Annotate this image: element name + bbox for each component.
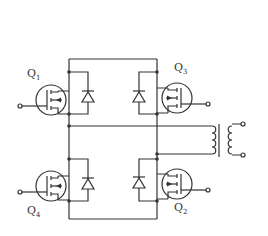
q2-mosfet bbox=[157, 169, 210, 199]
primary-winding bbox=[212, 126, 216, 154]
q4-label: Q4 bbox=[27, 205, 41, 219]
d2-diode bbox=[133, 159, 157, 201]
d3-diode bbox=[133, 72, 157, 114]
secondary-winding bbox=[228, 126, 232, 154]
q4-mosfet bbox=[18, 171, 69, 201]
transformer bbox=[212, 122, 245, 157]
q3-label: Q3 bbox=[174, 62, 188, 76]
q1-mosfet bbox=[18, 72, 69, 115]
q3-mosfet bbox=[157, 83, 210, 113]
full-bridge-circuit-diagram: Q1 Q3 Q4 Q2 bbox=[0, 0, 268, 236]
junction-dots bbox=[67, 70, 159, 203]
d4-diode bbox=[69, 159, 94, 201]
d1-diode bbox=[69, 72, 94, 114]
q2-label: Q2 bbox=[174, 202, 188, 216]
circuit-schematic bbox=[0, 0, 268, 236]
q1-label: Q1 bbox=[27, 68, 41, 82]
